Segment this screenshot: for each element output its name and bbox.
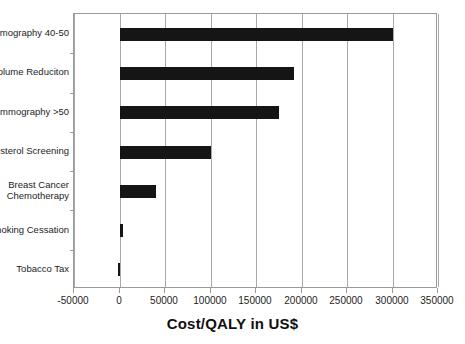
bar bbox=[120, 67, 295, 80]
y-tick bbox=[70, 93, 74, 94]
gridline-100000 bbox=[211, 14, 212, 287]
bar bbox=[120, 224, 123, 237]
x-tick-0 bbox=[119, 288, 120, 293]
bar bbox=[120, 106, 279, 119]
x-tick-350000 bbox=[437, 288, 438, 293]
bar bbox=[120, 185, 156, 198]
y-tick bbox=[70, 171, 74, 172]
bar bbox=[120, 146, 211, 159]
x-tick-300000 bbox=[392, 288, 393, 293]
x-tick-250000 bbox=[346, 288, 347, 293]
bar bbox=[118, 263, 120, 276]
category-label: Breast Cancer Chemotherapy bbox=[0, 179, 69, 201]
plot-area bbox=[73, 13, 437, 288]
category-label: Mammography 40-50 bbox=[0, 27, 69, 38]
x-tick-label-350000: 350000 bbox=[402, 295, 465, 306]
bar bbox=[120, 28, 393, 41]
gridline-350000 bbox=[438, 14, 439, 287]
gridline-150000 bbox=[256, 14, 257, 287]
y-tick bbox=[70, 132, 74, 133]
category-label: Lung Volume Reduciton bbox=[0, 66, 69, 77]
category-label: Smoking Cessation bbox=[0, 224, 69, 235]
category-label: Tobacco Tax bbox=[0, 263, 69, 274]
gridline-200000 bbox=[302, 14, 303, 287]
y-tick bbox=[70, 250, 74, 251]
gridline--50000 bbox=[74, 14, 75, 287]
category-label: Cholesterol Screening bbox=[0, 145, 69, 156]
gridline-300000 bbox=[393, 14, 394, 287]
x-tick-50000 bbox=[164, 288, 165, 293]
x-tick--50000 bbox=[73, 288, 74, 293]
y-tick bbox=[70, 53, 74, 54]
x-tick-100000 bbox=[210, 288, 211, 293]
x-axis-title: Cost/QALY in US$ bbox=[0, 315, 465, 332]
bar-chart: Cost/QALY in US$ -5000005000010000015000… bbox=[0, 0, 465, 344]
category-label: Mammography >50 bbox=[0, 106, 69, 117]
x-tick-200000 bbox=[301, 288, 302, 293]
gridline-250000 bbox=[347, 14, 348, 287]
x-tick-150000 bbox=[255, 288, 256, 293]
y-tick bbox=[70, 210, 74, 211]
